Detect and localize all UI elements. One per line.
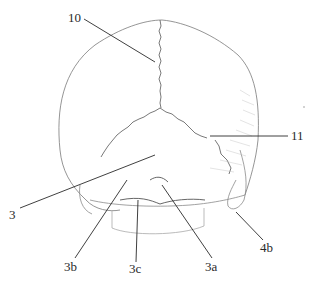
leader-3c bbox=[136, 200, 138, 262]
shading bbox=[210, 90, 255, 172]
skull-illustration: 10 11 3 3b 3c 3a 4b bbox=[0, 0, 312, 285]
leader-lines bbox=[20, 19, 288, 262]
label-3c: 3c bbox=[129, 262, 141, 275]
occipital-protuberance bbox=[120, 177, 205, 204]
speck bbox=[303, 106, 305, 108]
leader-4b bbox=[236, 212, 263, 240]
leader-3a bbox=[162, 185, 212, 258]
leader-10 bbox=[84, 19, 155, 62]
occipitomastoid-suture bbox=[215, 140, 231, 174]
leader-3 bbox=[20, 155, 155, 208]
sagittal-suture bbox=[159, 20, 161, 108]
label-11: 11 bbox=[291, 129, 304, 142]
label-4b: 4b bbox=[260, 241, 273, 254]
lambdoid-suture bbox=[101, 108, 207, 157]
skull-outline bbox=[59, 20, 259, 234]
label-3a: 3a bbox=[205, 260, 217, 273]
leader-3b bbox=[75, 180, 127, 258]
label-3b: 3b bbox=[64, 260, 77, 273]
label-3: 3 bbox=[9, 208, 16, 221]
label-10: 10 bbox=[68, 11, 81, 24]
